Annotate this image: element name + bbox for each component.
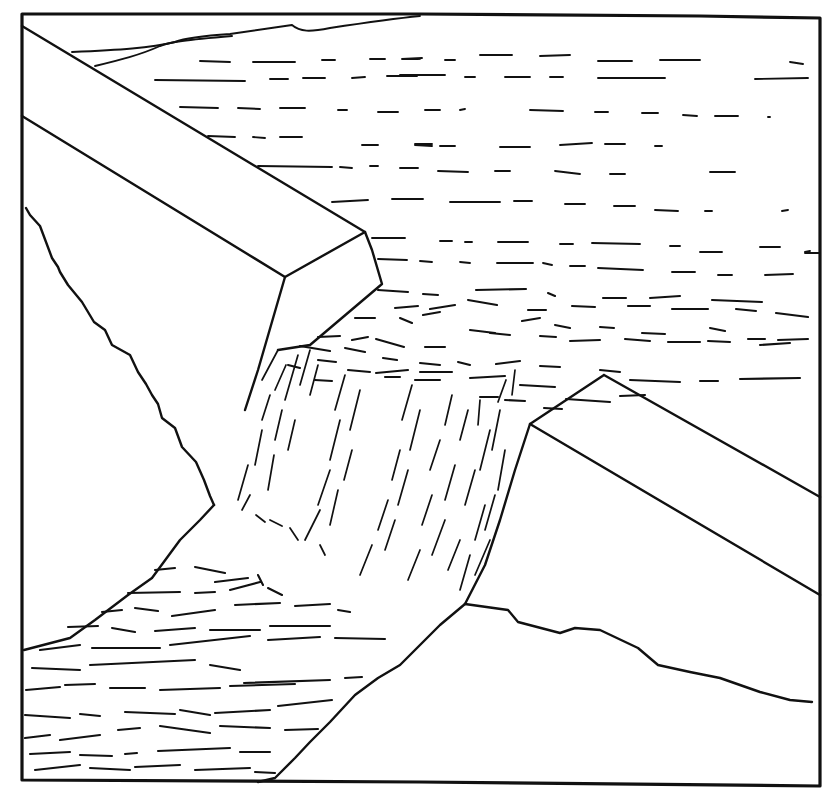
right-dam-segment (465, 375, 820, 702)
illustration-canvas: Dam breach with water flowing through a … (0, 0, 836, 807)
dam-breach-drawing (0, 0, 836, 807)
waterfall (238, 350, 515, 590)
breach-approach-water (288, 289, 808, 409)
downstream-river (24, 505, 465, 782)
frame (22, 14, 820, 786)
left-dam-segment (22, 26, 382, 505)
far-shoreline (72, 16, 420, 66)
